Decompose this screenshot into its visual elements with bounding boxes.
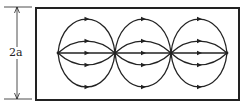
field-lines xyxy=(57,17,229,89)
field-lines-diagram xyxy=(0,0,245,106)
dimension-label: 2a xyxy=(8,47,24,59)
